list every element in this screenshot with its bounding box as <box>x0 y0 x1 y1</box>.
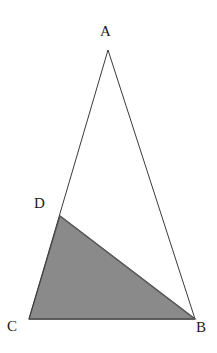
vertex-label-D: D <box>34 196 45 211</box>
vertex-label-C: C <box>7 319 17 334</box>
figure-canvas <box>0 0 217 353</box>
vertex-label-B: B <box>196 320 206 335</box>
geometry-figure: A D C B <box>0 0 217 353</box>
vertex-label-A: A <box>100 24 111 39</box>
